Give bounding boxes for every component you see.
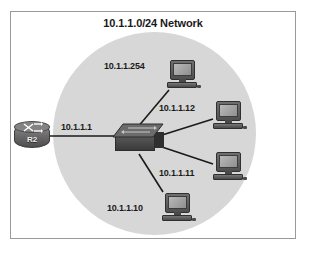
- pc-monitor: [216, 152, 241, 172]
- pc-monitor: [216, 101, 241, 121]
- pc-base: [213, 174, 243, 180]
- host-address-label-0: 10.1.1.254: [104, 61, 145, 71]
- router-label: R2: [14, 135, 50, 144]
- pc-screen: [173, 63, 192, 76]
- network-diagram-frame: 10.1.1.0/24 Network R2: [10, 11, 296, 239]
- host-node-2[interactable]: [212, 152, 246, 185]
- pc-mouse: [192, 218, 196, 221]
- host-address-label-2: 10.1.1.11: [159, 168, 194, 178]
- host-node-3[interactable]: [161, 193, 195, 226]
- pc-screen: [219, 104, 238, 117]
- pc-screen: [168, 196, 187, 209]
- host-address-label-3: 10.1.1.10: [107, 203, 143, 213]
- pc-base: [167, 82, 197, 88]
- router-node-r2[interactable]: R2: [14, 120, 50, 152]
- link-switch-to-host-11: [159, 146, 213, 164]
- pc-base: [213, 123, 243, 129]
- pc-mouse: [243, 126, 247, 129]
- switch-node[interactable]: [112, 123, 164, 157]
- link-switch-to-host-12: [159, 119, 213, 136]
- pc-monitor: [165, 193, 190, 213]
- router-interface-address-label: 10.1.1.1: [61, 122, 92, 132]
- pc-base: [162, 215, 192, 221]
- host-address-label-1: 10.1.1.12: [159, 103, 195, 113]
- pc-monitor: [170, 60, 195, 80]
- pc-mouse: [243, 177, 247, 180]
- pc-mouse: [197, 85, 201, 88]
- host-node-1[interactable]: [212, 101, 246, 134]
- pc-screen: [219, 155, 238, 168]
- router-arrows-icon: [21, 122, 43, 134]
- switch-top-face: [112, 123, 164, 141]
- host-node-0[interactable]: [166, 60, 200, 93]
